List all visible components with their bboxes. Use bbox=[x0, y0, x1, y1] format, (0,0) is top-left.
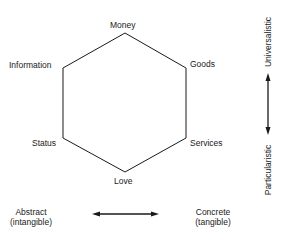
node-status: Status bbox=[32, 138, 56, 148]
node-love: Love bbox=[114, 176, 132, 186]
node-services: Services bbox=[190, 138, 223, 148]
node-goods: Goods bbox=[190, 59, 215, 69]
resource-hexagon-diagram bbox=[0, 0, 282, 235]
node-information: Information bbox=[9, 60, 52, 70]
axis-universalistic: Universalistic bbox=[263, 9, 273, 75]
vertical-double-arrow bbox=[266, 73, 271, 135]
axis-abstract: Abstract (intangible) bbox=[8, 207, 54, 227]
node-money: Money bbox=[110, 20, 136, 30]
horizontal-double-arrow bbox=[92, 212, 159, 217]
axis-particularistic: Particularistic bbox=[263, 136, 273, 204]
hexagon bbox=[63, 33, 186, 172]
axis-concrete: Concrete (tangible) bbox=[190, 207, 236, 227]
